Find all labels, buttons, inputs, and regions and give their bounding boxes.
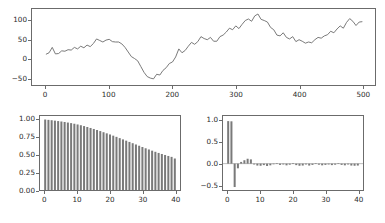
pacf-axes: −0.50.00.51.0 010203040 — [193, 103, 385, 223]
correlogram-bar — [292, 163, 294, 164]
correlogram-bar — [263, 164, 265, 165]
correlogram-bar — [54, 121, 56, 190]
correlogram-bar — [119, 138, 121, 190]
time-series-axes: −50050100 0100200300400500 — [0, 0, 385, 103]
correlogram-bar — [171, 157, 173, 190]
correlogram-bar — [347, 164, 349, 165]
y-tick-label: 0.25 — [0, 169, 35, 176]
correlogram-bar — [243, 160, 245, 163]
x-tick-label: 0 — [43, 91, 48, 98]
correlogram-bar — [141, 147, 143, 190]
correlogram-bar — [167, 156, 169, 190]
x-tick-label: 40 — [354, 196, 363, 203]
correlogram-bar — [80, 125, 82, 190]
correlogram-bar — [350, 164, 352, 166]
x-tick-label: 200 — [165, 91, 179, 98]
x-tick-mark — [77, 191, 78, 194]
correlogram-bar — [57, 121, 59, 190]
x-tick-mark — [260, 191, 261, 194]
y-tick-label: 0.0 — [193, 160, 218, 167]
correlogram-bar — [337, 163, 339, 164]
y-tick-label: 100 — [0, 16, 27, 23]
correlogram-bar — [106, 133, 108, 190]
correlogram-bar — [158, 153, 160, 190]
x-tick-label: 400 — [293, 91, 307, 98]
correlogram-bar — [86, 127, 88, 190]
y-tick-mark — [219, 186, 222, 187]
x-tick-label: 20 — [288, 196, 297, 203]
correlogram-bar — [109, 134, 111, 190]
correlogram-bar — [302, 164, 304, 166]
y-tick-mark — [28, 20, 31, 21]
x-tick-mark — [110, 191, 111, 194]
x-tick-mark — [359, 191, 360, 194]
x-tick-label: 10 — [73, 196, 82, 203]
correlogram-bar — [318, 164, 320, 165]
matplotlib-figure: −50050100 0100200300400500 0.000.250.500… — [0, 0, 385, 223]
correlogram-bar — [276, 163, 278, 164]
correlogram-bar — [96, 130, 98, 190]
correlogram-bar — [315, 163, 317, 164]
x-tick-mark — [109, 86, 110, 89]
correlogram-bar — [341, 164, 343, 165]
x-tick-mark — [44, 191, 45, 194]
correlogram-bar — [298, 164, 300, 166]
correlogram-bar — [83, 126, 85, 190]
correlogram-bar — [138, 146, 140, 190]
correlogram-bar — [250, 159, 252, 163]
correlogram-bar — [334, 164, 336, 165]
correlogram-bar — [151, 151, 153, 190]
correlogram-bar — [154, 152, 156, 190]
correlogram-bar — [128, 142, 130, 190]
correlogram-bar — [93, 129, 95, 190]
correlogram-bar — [354, 164, 356, 166]
correlogram-bar — [99, 131, 101, 190]
correlogram-bar — [47, 120, 49, 190]
x-tick-mark — [172, 86, 173, 89]
y-tick-mark — [36, 137, 39, 138]
correlogram-bar — [234, 164, 236, 187]
correlogram-bar — [122, 139, 124, 190]
correlogram-bar — [273, 164, 275, 165]
x-tick-label: 40 — [171, 196, 180, 203]
y-tick-mark — [36, 173, 39, 174]
y-tick-label: −50 — [0, 75, 27, 82]
correlogram-bar — [135, 144, 137, 190]
y-tick-mark — [28, 40, 31, 41]
y-tick-label: 1.0 — [193, 117, 218, 124]
y-tick-label: 0.50 — [0, 151, 35, 158]
x-tick-mark — [363, 86, 364, 89]
correlogram-bar — [311, 164, 313, 165]
correlogram-bar — [64, 122, 66, 190]
correlogram-bar — [73, 124, 75, 190]
acf-bars — [40, 116, 180, 190]
x-tick-label: 30 — [138, 196, 147, 203]
correlogram-bar — [161, 154, 163, 190]
correlogram-bar — [44, 120, 46, 190]
correlogram-bar — [321, 164, 323, 166]
y-tick-label: 0.75 — [0, 133, 35, 140]
correlogram-bar — [295, 164, 297, 165]
correlogram-bar — [247, 159, 249, 164]
pacf-plot-area — [222, 115, 364, 191]
correlogram-bar — [328, 164, 330, 165]
correlogram-bar — [331, 164, 333, 165]
x-tick-mark — [293, 191, 294, 194]
correlogram-bar — [70, 123, 72, 190]
x-tick-mark — [176, 191, 177, 194]
y-tick-mark — [219, 164, 222, 165]
x-tick-label: 0 — [225, 196, 230, 203]
time-series-line — [32, 9, 375, 85]
correlogram-bar — [282, 164, 284, 165]
pacf-bars — [223, 116, 363, 190]
x-tick-mark — [227, 191, 228, 194]
correlogram-bar — [112, 136, 114, 190]
x-tick-mark — [45, 86, 46, 89]
correlogram-bar — [266, 164, 268, 166]
y-tick-mark — [36, 155, 39, 156]
correlogram-bar — [77, 124, 79, 190]
correlogram-bar — [174, 159, 176, 190]
x-tick-label: 20 — [105, 196, 114, 203]
y-tick-label: 0.00 — [0, 187, 35, 194]
correlogram-bar — [60, 122, 62, 190]
